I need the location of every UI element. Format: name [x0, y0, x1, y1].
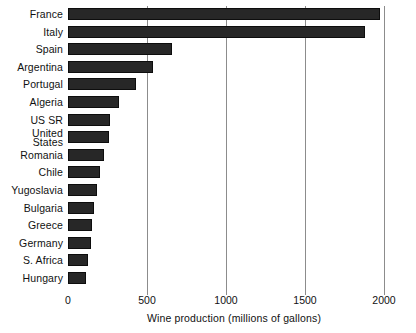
category-label-hungary: Hungary	[0, 270, 63, 288]
bar-row	[68, 76, 384, 94]
bar-row	[68, 24, 384, 42]
category-label-portugal: Portugal	[0, 76, 63, 94]
bar-bulgaria	[68, 202, 94, 214]
category-label-germany: Germany	[0, 235, 63, 253]
bar-chile	[68, 166, 100, 178]
x-tick-label-1500: 1500	[293, 294, 316, 306]
bar-row	[68, 112, 384, 130]
bar-row	[68, 129, 384, 147]
x-tick-label-1000: 1000	[214, 294, 237, 306]
bar-united-states	[68, 131, 109, 143]
category-label-france: France	[0, 6, 63, 24]
bar-algeria	[68, 96, 119, 108]
category-label-italy: Italy	[0, 24, 63, 42]
category-label-spain: Spain	[0, 41, 63, 59]
x-axis-title-text: Wine production (millions of gallons)	[147, 312, 321, 324]
bar-row	[68, 252, 384, 270]
wine-production-bar-chart: FranceItalySpainArgentinaPortugalAlgeria…	[0, 0, 416, 333]
x-axis-title: Wine production (millions of gallons)	[0, 312, 416, 324]
category-label-yugoslavia: Yugoslavia	[0, 182, 63, 200]
category-label-algeria: Algeria	[0, 94, 63, 112]
category-label-romania: Romania	[0, 147, 63, 165]
bar-italy	[68, 26, 365, 38]
x-tick-label-0: 0	[65, 294, 71, 306]
bar-romania	[68, 149, 104, 161]
bar-row	[68, 94, 384, 112]
category-label-line: States	[33, 138, 63, 147]
bar-france	[68, 8, 380, 20]
x-axis: 0500100015002000 Wine production (millio…	[0, 289, 416, 333]
bar-row	[68, 164, 384, 182]
bar-row	[68, 41, 384, 59]
category-axis-labels: FranceItalySpainArgentinaPortugalAlgeria…	[0, 6, 63, 289]
bar-greece	[68, 219, 92, 231]
bar-germany	[68, 237, 91, 249]
gridline-2000	[384, 6, 385, 289]
bar-row	[68, 182, 384, 200]
bar-spain	[68, 43, 172, 55]
bar-row	[68, 59, 384, 77]
category-label-united-states: UnitedStates	[0, 129, 63, 147]
bar-row	[68, 147, 384, 165]
bar-row	[68, 200, 384, 218]
x-tick-label-2000: 2000	[372, 294, 395, 306]
bar-portugal	[68, 78, 136, 90]
bar-row	[68, 217, 384, 235]
bar-hungary	[68, 272, 86, 284]
category-label-chile: Chile	[0, 164, 63, 182]
category-label-argentina: Argentina	[0, 59, 63, 77]
category-label-s-africa: S. Africa	[0, 252, 63, 270]
plot-area	[68, 6, 384, 289]
bar-ussr	[68, 114, 110, 126]
bar-row	[68, 235, 384, 253]
bar-yugoslavia	[68, 184, 97, 196]
bar-argentina	[68, 61, 153, 73]
x-tick-label-500: 500	[138, 294, 156, 306]
category-label-greece: Greece	[0, 217, 63, 235]
bar-row	[68, 6, 384, 24]
category-label-bulgaria: Bulgaria	[0, 200, 63, 218]
bar-row	[68, 270, 384, 288]
bar-s-africa	[68, 254, 88, 266]
